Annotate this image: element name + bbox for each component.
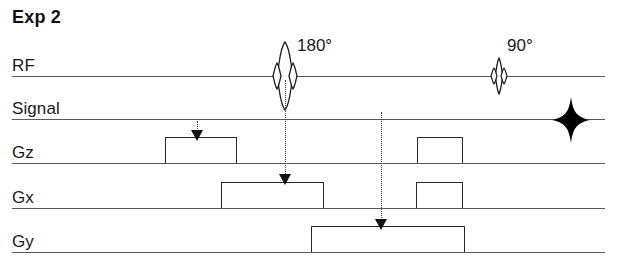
arrowhead-signal-to-gy: [375, 219, 387, 230]
rf-pulse-180-label: 180°: [297, 36, 332, 55]
baseline-gy: [12, 252, 605, 253]
page-title: Exp 2: [12, 6, 61, 28]
arrowhead-to-gz: [191, 130, 203, 141]
row-label-gx: Gx: [12, 188, 34, 207]
dotted-line-signal-to-gy: [381, 112, 382, 222]
row-label-gy: Gy: [12, 232, 34, 251]
baseline-gx: [12, 208, 605, 209]
row-label-rf: RF: [12, 56, 35, 75]
pulse-sequence-diagram: Exp 2 RF Signal Gz Gx Gy 180° 90°: [0, 0, 617, 278]
dotted-line-180-to-gx: [285, 80, 286, 176]
echo-signal-icon: [552, 97, 590, 143]
rf-pulse-90-icon: [484, 52, 514, 102]
baseline-gz: [12, 163, 605, 164]
row-label-signal: Signal: [12, 99, 60, 118]
gradient-pulse-gx-1: [221, 182, 324, 208]
baseline-rf: [12, 76, 605, 77]
row-label-gz: Gz: [12, 143, 34, 162]
gradient-pulse-gz-2: [417, 137, 463, 163]
baseline-signal: [12, 119, 605, 120]
gradient-pulse-gy-1: [311, 226, 465, 252]
arrowhead-180-to-gx: [279, 174, 291, 185]
gradient-pulse-gx-2: [416, 182, 463, 208]
rf-pulse-90-label: 90°: [507, 36, 533, 55]
